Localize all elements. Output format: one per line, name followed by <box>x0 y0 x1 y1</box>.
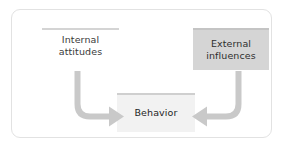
arrow-internal-to-behavior-icon <box>72 71 122 125</box>
node-external-influences-label-line2: influences <box>193 50 269 62</box>
node-internal-attitudes-rule <box>42 28 119 30</box>
node-external-influences-label: External influences <box>193 38 269 61</box>
node-internal-attitudes[interactable]: Internal attitudes <box>42 28 119 68</box>
node-external-influences-label-line1: External <box>193 38 269 50</box>
node-external-influences[interactable]: External influences <box>193 28 269 70</box>
node-behavior[interactable]: Behavior <box>117 93 195 132</box>
node-internal-attitudes-label-line2: attitudes <box>42 46 119 58</box>
node-behavior-label-line1: Behavior <box>117 107 195 118</box>
node-behavior-label: Behavior <box>117 107 195 118</box>
node-internal-attitudes-label: Internal attitudes <box>42 34 119 57</box>
node-internal-attitudes-label-line1: Internal <box>42 34 119 46</box>
diagram-canvas: Internal attitudes External influences B… <box>0 0 285 149</box>
arrow-external-to-behavior-icon <box>192 71 244 125</box>
diagram-card: Internal attitudes External influences B… <box>11 9 272 138</box>
